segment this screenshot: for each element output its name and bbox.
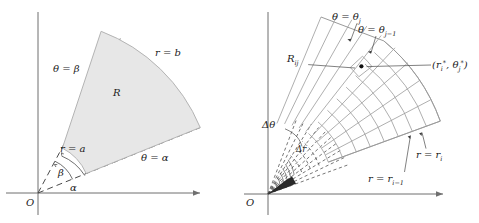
polar-subdivision-diagram: Δr O θ = θj θ = θj−1 Rij (ri*, θj*) Δθ r… [240, 0, 479, 223]
label-delta-theta: Δθ [261, 119, 275, 130]
label-beta: β [57, 167, 64, 178]
sample-paren-close: ) [463, 59, 468, 70]
leader-r-i [422, 133, 426, 149]
label-r-b: r = b [155, 47, 181, 58]
leader-sample-point [367, 65, 432, 67]
label-sample-point: (ri*, θj*) [432, 59, 468, 73]
label-r-i: r = ri [416, 149, 442, 163]
label-theta-beta: θ = β [53, 63, 80, 74]
leader-lines [285, 23, 431, 172]
x-axis-arrowhead [436, 191, 443, 197]
label-Rij: Rij [286, 53, 299, 67]
leader-r-im1 [405, 136, 411, 173]
label-r-im1-subscript: i−1 [392, 179, 404, 187]
sample-point-dot [359, 64, 363, 68]
label-r-im1: r = ri−1 [368, 173, 404, 187]
label-r-a: r = a [60, 143, 86, 154]
origin-label-right: O [246, 197, 254, 208]
label-Rij-subscript: ij [295, 59, 299, 67]
label-theta-jm1: θ = θj−1 [358, 24, 396, 38]
axes-right [244, 12, 443, 215]
region-label: R [112, 87, 121, 98]
label-theta-alpha: θ = α [141, 152, 169, 163]
x-axis-arrowhead [193, 190, 200, 196]
label-theta-jm1-text: θ = θ [358, 24, 385, 35]
grid-radials [277, 17, 440, 162]
label-delta-r: Δr [295, 144, 307, 154]
origin-label-left: O [26, 197, 34, 208]
label-r-im1-text: r = r [368, 173, 394, 184]
label-theta-jm1-subscript: j−1 [383, 30, 397, 38]
arc-beta-tick [54, 165, 57, 168]
label-theta-j-text: θ = θ [332, 11, 359, 22]
label-alpha: α [70, 182, 77, 193]
label-r-i-subscript: i [440, 155, 442, 163]
figure-container: O R θ = β θ = α r = a r = b β α [0, 0, 479, 223]
leader-Rij [308, 65, 355, 68]
polar-region-diagram: O R θ = β θ = α r = a r = b β α [0, 0, 240, 223]
label-r-i-text: r = r [416, 149, 442, 160]
